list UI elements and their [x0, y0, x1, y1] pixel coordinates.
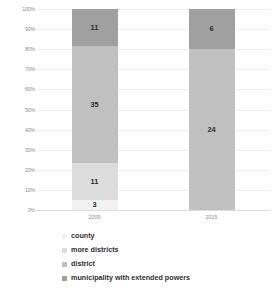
legend-swatch-icon	[62, 234, 67, 239]
bar-segment[interactable]: 11	[72, 9, 118, 46]
bar-segment[interactable]: 35	[72, 46, 118, 163]
legend-item[interactable]: municipality with extended powers	[62, 271, 274, 285]
legend-item-label: district	[71, 260, 95, 267]
y-axis-tick-label: 0%	[28, 207, 35, 213]
stacked-bar-chart: 100%90%80%70%60%50%40%30%20%10%0% 113511…	[0, 0, 274, 290]
y-axis-tick-label: 40%	[25, 127, 35, 133]
bar-segment-value-label: 24	[207, 126, 215, 133]
legend-item-label: county	[71, 232, 95, 239]
y-axis-tick-label: 10%	[25, 187, 35, 193]
plot-wrapper: 100%90%80%70%60%50%40%30%20%10%0% 113511…	[0, 0, 274, 228]
bar-segment-value-label: 35	[90, 101, 98, 108]
legend-swatch-icon	[62, 262, 67, 267]
y-axis-tick-label: 90%	[25, 26, 35, 32]
bar-segment[interactable]: 6	[189, 9, 235, 49]
y-axis-tick-label: 60%	[25, 86, 35, 92]
chart-legend: countymore districtsdistrictmunicipality…	[0, 229, 274, 290]
legend-item-label: municipality with extended powers	[71, 274, 190, 281]
y-axis-tick-label: 20%	[25, 167, 35, 173]
bar-segment-value-label: 11	[91, 24, 99, 31]
legend-swatch-icon	[62, 248, 67, 253]
bar-segment-value-label: 11	[91, 178, 99, 185]
y-axis-tick-label: 30%	[25, 147, 35, 153]
y-axis-tick-label: 100%	[22, 6, 35, 12]
bar-column[interactable]: 624	[189, 9, 235, 210]
legend-item-label: more districts	[71, 246, 119, 253]
legend-swatch-icon	[62, 276, 67, 281]
bar-segment-value-label: 3	[92, 201, 96, 208]
bar-group: 1135113624	[36, 9, 270, 210]
legend-item[interactable]: more districts	[62, 243, 274, 257]
x-axis: 20092015	[36, 211, 270, 225]
y-axis-tick-label: 70%	[25, 66, 35, 72]
bar-segment-value-label: 6	[209, 25, 213, 32]
bar-segment[interactable]: 11	[72, 163, 118, 200]
x-axis-tick-label: 2009	[72, 211, 118, 220]
legend-item[interactable]: district	[62, 257, 274, 271]
y-axis-tick-label: 80%	[25, 46, 35, 52]
bar-segment[interactable]: 24	[189, 49, 235, 210]
y-axis: 100%90%80%70%60%50%40%30%20%10%0%	[2, 9, 35, 210]
legend-item[interactable]: county	[62, 229, 274, 243]
bar-segment[interactable]: 3	[72, 200, 118, 210]
plot-area: 1135113624	[36, 9, 270, 210]
y-axis-tick-label: 50%	[25, 107, 35, 113]
bar-column[interactable]: 1135113	[72, 9, 118, 210]
x-axis-tick-label: 2015	[189, 211, 235, 220]
